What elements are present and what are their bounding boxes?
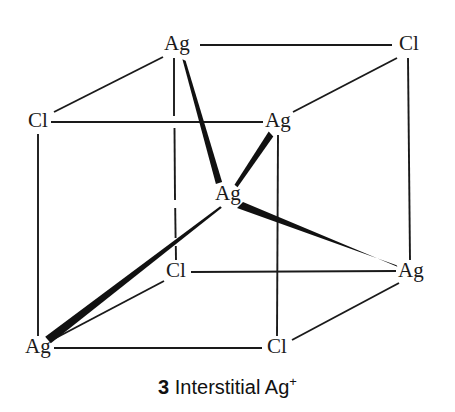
- interstitial-bond-bottom-left-ag: [45, 206, 222, 343]
- bond-inner-cl-bottom-left-ag: [52, 281, 164, 340]
- atom-label-right-ag: Ag: [398, 258, 424, 282]
- bond-top-right-cl-right-ag: [408, 58, 410, 260]
- lattice-diagram: Ag Cl Cl Ag Ag Cl Ag Ag Cl: [0, 0, 455, 412]
- figure-caption: 3 Interstitial Ag+: [0, 374, 455, 399]
- caption-number: 3: [158, 376, 169, 398]
- atom-label-bottom-left-ag: Ag: [25, 334, 51, 358]
- interstitial-bond-mid-right-ag: [235, 132, 274, 188]
- bond-top-ag-left-cl: [54, 57, 163, 112]
- atom-label-left-cl: Cl: [28, 108, 48, 132]
- figure-root: Ag Cl Cl Ag Ag Cl Ag Ag Cl 3 Interstitia…: [0, 0, 455, 412]
- atom-label-inner-cl: Cl: [166, 258, 186, 282]
- atom-label-bottom-cl: Cl: [267, 334, 287, 358]
- bond-top-right-cl-mid-right-ag: [293, 58, 397, 112]
- atom-label-top-right-cl: Cl: [399, 31, 419, 55]
- atom-label-mid-right-ag: Ag: [265, 108, 291, 132]
- interstitial-bond-right-ag: [237, 202, 397, 267]
- caption-superscript: +: [289, 374, 297, 389]
- bond-top-ag-inner-cl: [174, 58, 176, 260]
- bond-bottom-cl-right-ag: [292, 283, 399, 340]
- bond-segment: [175, 128, 176, 200]
- atom-label-interstitial-ag: Ag: [215, 181, 241, 205]
- bond-mid-right-ag-bottom-cl: [277, 135, 278, 336]
- atom-label-top-ag: Ag: [164, 31, 190, 55]
- bond-inner-cl-right-ag: [191, 271, 396, 272]
- caption-text: Interstitial Ag: [169, 376, 289, 398]
